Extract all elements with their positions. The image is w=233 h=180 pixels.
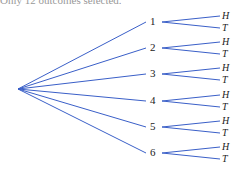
node-label-2: 2 xyxy=(150,42,156,53)
leaf-label-6-t: T xyxy=(222,154,228,164)
leaf-label-3-t: T xyxy=(222,75,228,85)
leaf-label-4-h: H xyxy=(222,90,229,100)
leaf-label-1-t: T xyxy=(222,23,228,33)
leaf-branches xyxy=(162,16,220,159)
node-label-1: 1 xyxy=(150,16,156,27)
leaf-label-2-h: H xyxy=(222,37,229,47)
leaf-label-1-h: H xyxy=(222,11,229,21)
node-label-4: 4 xyxy=(150,95,156,106)
node-label-5: 5 xyxy=(150,121,156,132)
root-branches xyxy=(18,22,146,153)
leaf-label-3-h: H xyxy=(222,63,229,73)
node-label-6: 6 xyxy=(150,147,156,158)
leaf-label-5-t: T xyxy=(222,128,228,138)
leaf-label-6-h: H xyxy=(222,142,229,152)
leaf-label-2-t: T xyxy=(222,49,228,59)
tree-diagram xyxy=(0,0,233,180)
node-label-3: 3 xyxy=(150,68,156,79)
leaf-label-4-t: T xyxy=(222,102,228,112)
leaf-label-5-h: H xyxy=(222,116,229,126)
